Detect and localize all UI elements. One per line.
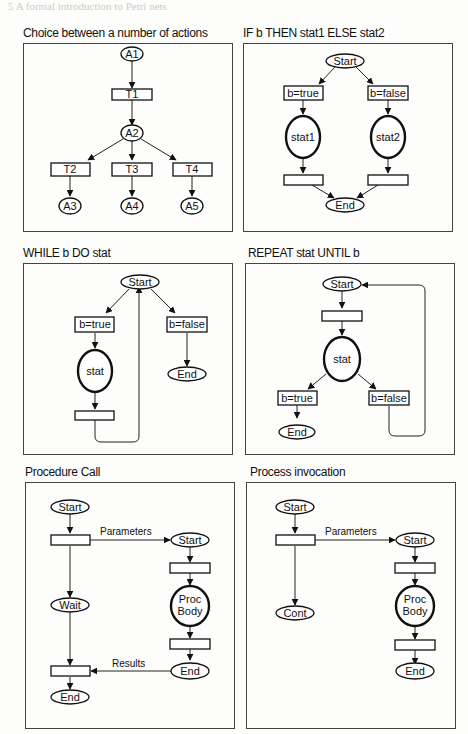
place-caller-start-label: Start — [283, 501, 306, 513]
place-proc-body-label-2: Body — [402, 605, 428, 617]
diagram-process-invocation: Parameters Start Cont Start Proc Body En… — [276, 500, 435, 679]
diagram-procedure-call: Parameters Results Start Wait End Start … — [51, 500, 210, 704]
place-end-label: End — [287, 426, 307, 438]
place-stat-label: stat — [333, 353, 351, 365]
place-caller-start-label: Start — [58, 501, 81, 513]
place-proc-end-label: End — [405, 665, 425, 677]
place-a1-label: A1 — [125, 48, 138, 60]
place-proc-start-label: Start — [178, 534, 201, 546]
transition-proc-enter — [395, 563, 435, 573]
arc-label-parameters: Parameters — [100, 526, 152, 537]
place-start-label: Start — [330, 278, 353, 290]
transition-b-false-label: b=false — [371, 392, 407, 404]
transition-t2-label: T2 — [64, 163, 77, 175]
diagram-repeat-until: Start stat b=true b=false End — [278, 277, 425, 439]
transition-b-false-label: b=false — [169, 318, 205, 330]
place-stat-label: stat — [86, 365, 104, 377]
place-proc-body-label-1: Proc — [404, 593, 427, 605]
place-start-label: Start — [128, 276, 151, 288]
place-caller-end-label: End — [60, 691, 80, 703]
place-stat2-label: stat2 — [376, 131, 400, 143]
transition-join-right — [368, 175, 408, 185]
transition-t4-label: T4 — [186, 163, 199, 175]
transition-proc-exit — [170, 639, 210, 649]
place-wait-label: Wait — [59, 599, 81, 611]
place-a3-label: A3 — [63, 200, 76, 212]
petri-net-diagrams: A1 T1 A2 T2 T3 T4 A3 A4 A5 Start b=true … — [0, 0, 468, 734]
transition-spawn — [276, 535, 315, 545]
transition-return — [51, 666, 90, 676]
place-stat1-label: stat1 — [291, 131, 315, 143]
transition-enter — [322, 311, 362, 321]
place-proc-body-label-1: Proc — [179, 593, 202, 605]
place-a2-label: A2 — [125, 127, 138, 139]
transition-proc-enter — [170, 563, 210, 573]
transition-b-true-label: b=true — [281, 392, 313, 404]
place-end-label: End — [177, 368, 197, 380]
transition-proc-exit — [395, 640, 435, 650]
place-proc-start-label: Start — [403, 534, 426, 546]
place-start-label: Start — [333, 55, 356, 67]
place-cont-label: Cont — [283, 607, 306, 619]
transition-b-true-label: b=true — [287, 87, 319, 99]
transition-b-true-label: b=true — [79, 318, 111, 330]
diagram-while-do: Start b=true b=false stat End — [75, 275, 207, 442]
transition-b-false-label: b=false — [370, 87, 406, 99]
place-a5-label: A5 — [185, 200, 198, 212]
arc-label-parameters: Parameters — [325, 526, 377, 537]
diagram-if-then-else: Start b=true b=false stat1 stat2 End — [284, 54, 408, 212]
place-proc-end-label: End — [180, 665, 200, 677]
place-a4-label: A4 — [125, 200, 138, 212]
place-end-label: End — [335, 199, 355, 211]
transition-t3-label: T3 — [126, 163, 139, 175]
arc-label-results: Results — [112, 658, 145, 669]
place-proc-body-label-2: Body — [177, 605, 203, 617]
transition-call — [51, 535, 90, 545]
diagram-choice: A1 T1 A2 T2 T3 T4 A3 A4 A5 — [51, 47, 212, 214]
transition-loop — [75, 411, 114, 420]
transition-t1-label: T1 — [126, 88, 139, 100]
transition-join-left — [284, 175, 323, 185]
